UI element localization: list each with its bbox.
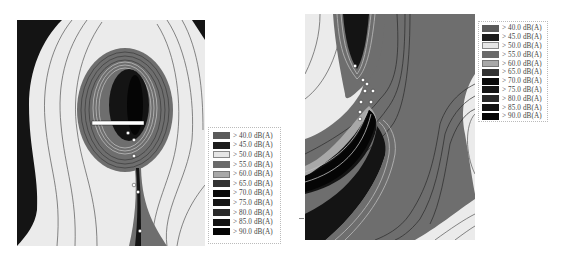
legend-swatch-40 <box>213 132 230 139</box>
legend-swatch-55 <box>213 161 230 168</box>
legend-row: > 45.0 dB(A) <box>213 141 276 151</box>
legend-row: > 70.0 dB(A) <box>213 189 276 199</box>
legend-swatch-80 <box>213 209 230 216</box>
legend-row: > 70.0 dB(A) <box>482 77 544 86</box>
legend-label: > 85.0 dB(A) <box>233 218 273 226</box>
legend-row: > 50.0 dB(A) <box>482 42 544 51</box>
legend-swatch-55 <box>482 51 499 58</box>
legend-swatch-65 <box>482 69 499 76</box>
legend-row: > 85.0 dB(A) <box>213 217 276 227</box>
legend-label: > 55.0 dB(A) <box>502 51 542 59</box>
axis-tick <box>299 218 304 219</box>
legend-label: > 70.0 dB(A) <box>502 77 542 85</box>
legend-swatch-70 <box>213 190 230 197</box>
legend-swatch-60 <box>213 171 230 178</box>
legend-label: > 45.0 dB(A) <box>502 33 542 41</box>
noise-map-right <box>305 14 475 240</box>
legend-swatch-75 <box>482 86 499 93</box>
legend-swatch-85 <box>482 104 499 111</box>
legend-swatch-40 <box>482 25 499 32</box>
legend-row: > 60.0 dB(A) <box>213 169 276 179</box>
legend-left: > 40.0 dB(A) > 45.0 dB(A) > 50.0 dB(A) >… <box>208 127 281 244</box>
legend-row: > 85.0 dB(A) <box>482 103 544 112</box>
legend-label: > 60.0 dB(A) <box>233 170 273 178</box>
legend-row: > 90.0 dB(A) <box>482 112 544 121</box>
legend-swatch-50 <box>482 42 499 49</box>
legend-label: > 85.0 dB(A) <box>502 104 542 112</box>
legend-swatch-80 <box>482 95 499 102</box>
contour-plot-left <box>17 20 205 246</box>
legend-label: > 40.0 dB(A) <box>233 132 273 140</box>
legend-row: > 55.0 dB(A) <box>213 160 276 170</box>
legend-row: > 80.0 dB(A) <box>482 94 544 103</box>
legend-row: > 55.0 dB(A) <box>482 50 544 59</box>
legend-label: > 70.0 dB(A) <box>233 189 273 197</box>
legend-label: > 50.0 dB(A) <box>233 151 273 159</box>
contour-plot-right <box>305 14 475 240</box>
legend-swatch-45 <box>213 142 230 149</box>
legend-row: > 80.0 dB(A) <box>213 208 276 218</box>
legend-swatch-65 <box>213 180 230 187</box>
legend-row: > 40.0 dB(A) <box>482 24 544 33</box>
legend-label: > 80.0 dB(A) <box>233 209 273 217</box>
legend-label: > 90.0 dB(A) <box>502 112 542 120</box>
legend-swatch-70 <box>482 78 499 85</box>
legend-label: > 90.0 dB(A) <box>233 228 273 236</box>
legend-right: > 40.0 dB(A) > 45.0 dB(A) > 50.0 dB(A) >… <box>478 21 548 122</box>
legend-swatch-50 <box>213 151 230 158</box>
legend-row: > 40.0 dB(A) <box>213 131 276 141</box>
legend-swatch-45 <box>482 34 499 41</box>
legend-swatch-60 <box>482 60 499 67</box>
legend-label: > 60.0 dB(A) <box>502 60 542 68</box>
legend-row: > 75.0 dB(A) <box>213 198 276 208</box>
legend-row: > 50.0 dB(A) <box>213 150 276 160</box>
legend-swatch-85 <box>213 219 230 226</box>
noise-map-left <box>17 20 205 246</box>
legend-label: > 75.0 dB(A) <box>233 199 273 207</box>
legend-label: > 65.0 dB(A) <box>233 180 273 188</box>
legend-swatch-90 <box>482 113 499 120</box>
legend-row: > 45.0 dB(A) <box>482 33 544 42</box>
legend-label: > 75.0 dB(A) <box>502 86 542 94</box>
legend-swatch-90 <box>213 228 230 235</box>
legend-label: > 50.0 dB(A) <box>502 42 542 50</box>
legend-label: > 65.0 dB(A) <box>502 68 542 76</box>
legend-row: > 90.0 dB(A) <box>213 227 276 237</box>
legend-row: > 60.0 dB(A) <box>482 59 544 68</box>
legend-label: > 40.0 dB(A) <box>502 24 542 32</box>
legend-label: > 80.0 dB(A) <box>502 95 542 103</box>
legend-swatch-75 <box>213 199 230 206</box>
legend-row: > 65.0 dB(A) <box>213 179 276 189</box>
legend-label: > 45.0 dB(A) <box>233 141 273 149</box>
legend-row: > 65.0 dB(A) <box>482 68 544 77</box>
legend-row: > 75.0 dB(A) <box>482 86 544 95</box>
legend-label: > 55.0 dB(A) <box>233 161 273 169</box>
